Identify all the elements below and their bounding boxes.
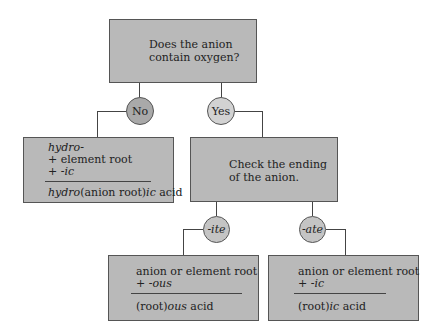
check-ending-box: Check the ending of the anion.: [190, 137, 338, 202]
anion-root: (anion root): [80, 186, 146, 199]
ite-circle: -ite: [203, 216, 230, 243]
no-label: No: [132, 105, 148, 118]
connector-no-vertical: [97, 111, 98, 137]
connector-ate-vertical: [345, 229, 346, 255]
question-box: Does the anion contain oxygen?: [109, 19, 257, 83]
ic-italic: ic: [330, 300, 340, 313]
ous-italic: ous: [168, 300, 187, 313]
connector-question-yes: [221, 83, 222, 97]
connector-check-ate: [312, 202, 313, 216]
ate-circle: -ate: [299, 216, 326, 243]
ous-divider: [131, 293, 242, 294]
question-line2: contain oxygen?: [149, 51, 240, 64]
connector-ite-horizontal: [183, 229, 203, 230]
ite-label: -ite: [207, 223, 225, 236]
connector-question-no: [139, 83, 140, 97]
ic-italic: ic: [146, 186, 156, 199]
connector-yes-horizontal: [235, 111, 263, 112]
ic-plus: + -ic: [298, 277, 324, 290]
ate-label: -ate: [302, 223, 323, 236]
ic-divider: [294, 293, 386, 294]
connector-ite-vertical: [183, 229, 184, 255]
root-word: (root): [136, 300, 168, 313]
plus-sign: +: [136, 277, 149, 290]
ic-suffix: -ic: [311, 277, 324, 290]
ous-plus: + -ous: [136, 277, 172, 290]
hydro-plus-ic: + -ic: [48, 165, 74, 178]
plus-sign: +: [48, 165, 61, 178]
ic-acid-box: anion or element root + -ic (root)ic aci…: [268, 255, 419, 321]
acid-word: acid: [156, 186, 183, 199]
ous-suffix: -ous: [149, 277, 172, 290]
acid-word: acid: [339, 300, 366, 313]
check-line1: Check the ending: [229, 158, 327, 171]
hydro-italic: hydro: [48, 186, 80, 199]
ic-result: (root)ic acid: [298, 300, 366, 313]
yes-circle: Yes: [207, 97, 235, 125]
ous-acid-box: anion or element root + -ous (root)ous a…: [108, 255, 259, 321]
hydro-divider: [45, 181, 151, 182]
ic-suffix: -ic: [61, 165, 74, 178]
hydro-acid-box: hydro- + element root + -ic hydro(anion …: [23, 137, 174, 203]
acid-word: acid: [187, 300, 214, 313]
connector-no-horizontal: [97, 111, 126, 112]
connector-ate-horizontal: [326, 229, 346, 230]
root-word: (root): [298, 300, 330, 313]
connector-yes-vertical: [262, 111, 263, 137]
yes-label: Yes: [212, 105, 230, 118]
ous-result: (root)ous acid: [136, 300, 214, 313]
hydro-result: hydro(anion root)ic acid: [48, 186, 183, 199]
no-circle: No: [126, 97, 154, 125]
plus-sign: +: [298, 277, 311, 290]
question-line1: Does the anion: [149, 38, 232, 51]
check-line2: of the anion.: [229, 171, 299, 184]
connector-check-ite: [216, 202, 217, 216]
